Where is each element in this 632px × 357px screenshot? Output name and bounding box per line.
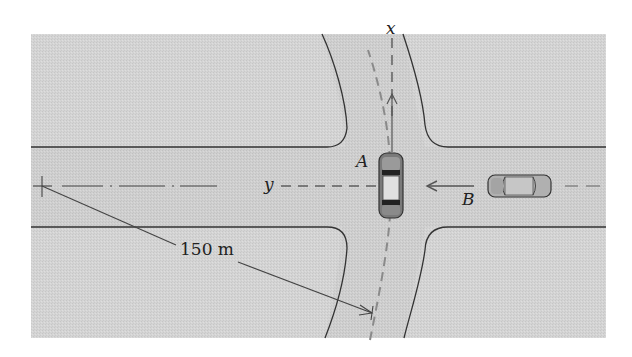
car-b [488, 175, 551, 197]
car-a [379, 153, 403, 218]
car-b-label: B [462, 191, 475, 208]
car-a-label: A [356, 153, 368, 170]
intersection-diagram: x y A B 150 m [0, 0, 632, 357]
radius-label: 150 m [180, 241, 234, 258]
x-axis-label: x [386, 20, 396, 37]
y-axis-label: y [264, 176, 274, 193]
diagram-canvas [0, 0, 632, 357]
